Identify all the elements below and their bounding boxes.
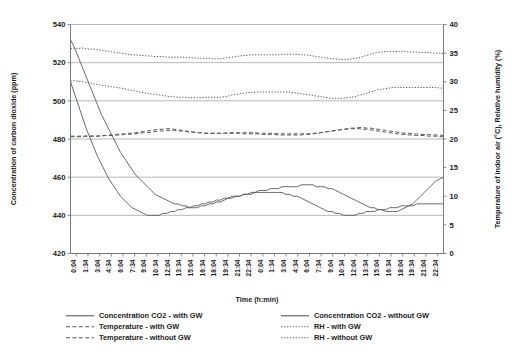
series-line <box>71 48 444 59</box>
x-tick-label: 15:04 <box>373 259 380 276</box>
y-axis-title: Concentration of carbon dioxide (ppm) <box>9 72 18 205</box>
y2-axis-title: Temperature of indoor air (°C), Relative… <box>493 49 502 228</box>
y-tick-label: 460 <box>53 173 66 182</box>
x-tick-label: 1:34 <box>82 259 89 273</box>
y-tick-label: 420 <box>53 249 66 258</box>
y-axis-tick-labels: 420440460480500520540 <box>53 20 66 258</box>
x-tick-label: 16:34 <box>199 259 206 276</box>
y-tick-label: 440 <box>53 211 66 220</box>
x-tick-label: 4:34 <box>105 259 112 273</box>
x-tick-label: 18:04 <box>210 259 217 276</box>
series-line <box>71 82 444 216</box>
x-tick-label: 0:04 <box>70 259 77 273</box>
x-tick-label: 0:04 <box>257 259 264 273</box>
legend-label: Concentration CO2 - without GW <box>314 311 429 320</box>
legend-label: RH - without GW <box>314 333 372 342</box>
x-tick-label: 19:34 <box>222 259 229 276</box>
x-tick-label: 3:04 <box>94 259 101 273</box>
legend-label: Temperature - with GW <box>99 322 179 331</box>
x-tick-label: 13:34 <box>362 259 369 276</box>
x-tick-label: 6:04 <box>303 259 310 273</box>
x-tick-label: 6:04 <box>117 259 124 273</box>
x-tick-label: 22:34 <box>245 259 252 276</box>
x-tick-label: 16:34 <box>385 259 392 276</box>
legend-label: Concentration CO2 - with GW <box>99 311 202 320</box>
x-tick-label: 10:34 <box>338 259 345 276</box>
series-line <box>71 128 444 137</box>
x-tick-label: 21:04 <box>234 259 241 276</box>
x-tick-label: 1:34 <box>268 259 275 273</box>
x-tick-label: 10:34 <box>152 259 159 276</box>
series-line <box>71 40 444 212</box>
y-tick-label: 540 <box>53 20 66 29</box>
x-axis-title: Time (h:min) <box>236 295 280 304</box>
x-tick-label: 12:04 <box>350 259 357 276</box>
chart-legend: Concentration CO2 - with GWTemperature -… <box>66 311 429 342</box>
legend-label: Temperature - without GW <box>99 333 191 342</box>
x-tick-label: 9:04 <box>327 259 334 273</box>
y-tick-label: 500 <box>53 97 66 106</box>
x-tick-label: 7:34 <box>315 259 322 273</box>
y2-tick-label: 30 <box>450 77 458 86</box>
series-line <box>71 81 444 99</box>
series-layer <box>71 40 444 216</box>
x-tick-label: 22:34 <box>432 259 439 276</box>
y2-tick-label: 35 <box>450 49 459 58</box>
x-tick-label: 19:34 <box>408 259 415 276</box>
y2-tick-label: 25 <box>450 106 459 115</box>
x-tick-label: 13:34 <box>175 259 182 276</box>
x-tick-label: 3:04 <box>280 259 287 273</box>
x-tick-label: 18:04 <box>397 259 404 276</box>
x-tick-label: 15:04 <box>187 259 194 276</box>
y2-tick-label: 40 <box>450 20 458 29</box>
chart-figure: 420440460480500520540 0510152025303540 0… <box>0 0 512 352</box>
x-tick-label: 9:04 <box>140 259 147 273</box>
x-axis-tick-labels: 0:041:343:044:346:047:349:0410:3412:0413… <box>70 259 438 276</box>
y2-axis-tick-labels: 0510152025303540 <box>450 20 459 258</box>
x-tick-label: 21:04 <box>420 259 427 276</box>
axes-layer <box>68 25 447 257</box>
y2-tick-label: 20 <box>450 135 458 144</box>
chart-canvas: 420440460480500520540 0510152025303540 0… <box>0 0 512 352</box>
x-tick-label: 7:34 <box>129 259 136 273</box>
y2-tick-label: 5 <box>450 221 455 230</box>
y2-tick-label: 10 <box>450 192 458 201</box>
gridlines <box>71 25 444 254</box>
y-tick-label: 520 <box>53 58 66 67</box>
x-tick-label: 4:34 <box>292 259 299 273</box>
x-tick-label: 12:04 <box>164 259 171 276</box>
y-tick-label: 480 <box>53 135 66 144</box>
y2-tick-label: 15 <box>450 163 459 172</box>
legend-label: RH - with GW <box>314 322 361 331</box>
y2-tick-label: 0 <box>450 249 454 258</box>
